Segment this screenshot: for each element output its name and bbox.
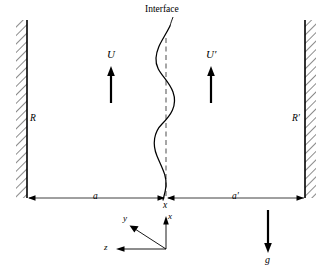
diagram-canvas: [0, 0, 328, 274]
interface-label: Interface: [145, 5, 179, 15]
dimension-right-arrowhead-end: [297, 195, 305, 200]
velocity-arrow-right-label: U′: [206, 49, 216, 60]
dimension-right-arrowhead-start: [167, 195, 175, 200]
gravity-arrow: [264, 210, 272, 253]
axis-y-line: [135, 229, 166, 249]
axis-z-label: z: [104, 243, 108, 252]
velocity-arrow-left-label: U: [107, 49, 115, 60]
right-wall-label: R′: [292, 114, 300, 124]
dimension-left-arrowhead-start: [28, 195, 36, 200]
axis-y-label: y: [123, 214, 127, 223]
velocity-arrow-right-head: [207, 66, 215, 76]
dimension-left-label: a: [93, 192, 98, 202]
dimension-right-label: a′: [232, 192, 239, 202]
velocity-arrow-left: [107, 66, 115, 103]
left-wall-label: R: [30, 114, 36, 124]
velocity-arrow-left-head: [107, 66, 115, 76]
dimension-center-label: x: [163, 201, 167, 211]
interface-curve: [154, 26, 174, 200]
axis-z-arrowhead: [116, 246, 125, 252]
gravity-arrow-head: [264, 243, 272, 253]
left-wall-hatching: [16, 20, 27, 198]
fluid-interface-diagram: Interface R R′ U U′ g a a′ x x y z: [0, 0, 328, 274]
right-wall: [305, 20, 316, 198]
axis-x-label: x: [168, 212, 172, 221]
interface-leader-line: [170, 17, 173, 26]
left-wall: [16, 20, 27, 198]
right-wall-hatching: [305, 20, 316, 198]
axis-y-arrowhead: [130, 225, 139, 232]
gravity-arrow-label: g: [265, 255, 270, 265]
velocity-arrow-right: [207, 66, 215, 103]
